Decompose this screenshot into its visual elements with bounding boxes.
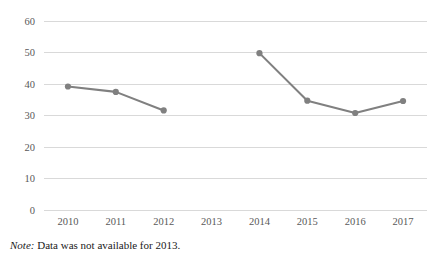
data-point-marker [256, 50, 262, 56]
x-axis-tick-labels: 20102011201220132014201520162017 [57, 216, 413, 225]
y-tick-label: 10 [25, 173, 36, 184]
x-tick-label: 2010 [57, 216, 78, 225]
data-point-marker [113, 89, 119, 95]
note-label: Note: [10, 239, 34, 251]
y-tick-label: 30 [25, 110, 36, 121]
series-segment [259, 53, 403, 113]
data-point-marker [304, 98, 310, 104]
chart-note: Note: Data was not available for 2013. [10, 238, 440, 256]
gridlines [44, 21, 427, 210]
y-tick-label: 60 [25, 16, 36, 27]
figure: 0102030405060 20102011201220132014201520… [0, 0, 445, 262]
y-axis-tick-labels: 0102030405060 [25, 16, 36, 216]
data-point-marker [352, 110, 358, 116]
x-tick-label: 2013 [201, 216, 222, 225]
x-tick-label: 2012 [153, 216, 174, 225]
note-text: Data was not available for 2013. [34, 239, 180, 251]
data-point-marker [161, 107, 167, 113]
y-tick-label: 0 [30, 205, 35, 216]
data-point-marker [65, 83, 71, 89]
chart-canvas: 0102030405060 20102011201220132014201520… [0, 0, 445, 225]
y-tick-label: 20 [25, 142, 36, 153]
y-tick-label: 40 [25, 79, 36, 90]
x-tick-label: 2017 [393, 216, 414, 225]
line-chart: 0102030405060 20102011201220132014201520… [0, 0, 445, 225]
data-point-marker [400, 98, 406, 104]
x-tick-label: 2015 [297, 216, 318, 225]
y-tick-label: 50 [25, 47, 36, 58]
x-tick-label: 2014 [249, 216, 271, 225]
series-markers [65, 50, 406, 116]
series-line [68, 53, 403, 113]
x-tick-label: 2016 [345, 216, 366, 225]
x-tick-label: 2011 [106, 216, 127, 225]
